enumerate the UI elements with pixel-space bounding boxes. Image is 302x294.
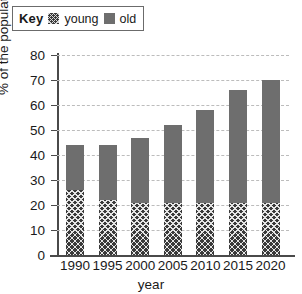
y-tick-mark	[51, 230, 57, 231]
gridline	[57, 105, 289, 106]
stacked-bar[interactable]	[164, 125, 182, 255]
gridline	[57, 55, 289, 56]
y-tick-label: 30	[19, 174, 45, 188]
stacked-bar[interactable]	[196, 110, 214, 255]
y-tick-label: 0	[19, 249, 45, 263]
y-tick-label: 10	[19, 224, 45, 238]
legend-key-label: Key	[19, 11, 43, 26]
stacked-bar[interactable]	[229, 90, 247, 255]
plot-area	[57, 55, 289, 255]
chart-legend: Key young old	[12, 6, 144, 31]
bar-segment-old[interactable]	[131, 138, 149, 203]
y-tick-label: 60	[19, 99, 45, 113]
y-tick-mark	[51, 130, 57, 131]
stacked-bar[interactable]	[262, 80, 280, 255]
legend-item-young: young	[64, 12, 98, 26]
y-tick-mark	[51, 55, 57, 56]
y-tick-mark	[51, 180, 57, 181]
bar-segment-old[interactable]	[196, 110, 214, 203]
y-axis-title: % of the population	[0, 0, 11, 95]
y-tick-label: 40	[19, 149, 45, 163]
bar-segment-young[interactable]	[131, 203, 149, 256]
y-tick-mark	[51, 105, 57, 106]
y-tick-mark	[51, 155, 57, 156]
bar-segment-young[interactable]	[99, 200, 117, 255]
stacked-bar[interactable]	[131, 138, 149, 256]
bar-segment-young[interactable]	[66, 190, 84, 255]
y-tick-mark	[51, 205, 57, 206]
bar-segment-old[interactable]	[66, 145, 84, 190]
y-tick-mark	[51, 255, 57, 256]
bar-segment-old[interactable]	[99, 145, 117, 200]
x-axis-title: year	[0, 277, 302, 292]
bar-segment-young[interactable]	[229, 203, 247, 256]
y-tick-mark	[51, 80, 57, 81]
bar-segment-young[interactable]	[164, 203, 182, 256]
bar-segment-young[interactable]	[262, 203, 280, 256]
legend-item-old: old	[120, 12, 137, 26]
bar-segment-old[interactable]	[229, 90, 247, 203]
bar-segment-young[interactable]	[196, 203, 214, 256]
y-tick-label: 20	[19, 199, 45, 213]
stacked-bar[interactable]	[99, 145, 117, 255]
x-axis-line	[50, 255, 295, 257]
bar-segment-old[interactable]	[262, 80, 280, 203]
gridline	[57, 80, 289, 81]
solid-gray-swatch	[104, 13, 115, 24]
y-tick-label: 70	[19, 74, 45, 88]
stacked-bar[interactable]	[66, 145, 84, 255]
y-tick-label: 50	[19, 124, 45, 138]
y-tick-label: 80	[19, 49, 45, 63]
crosshatch-swatch	[48, 13, 59, 24]
bar-segment-old[interactable]	[164, 125, 182, 203]
x-tick-label: 2020	[251, 259, 291, 273]
